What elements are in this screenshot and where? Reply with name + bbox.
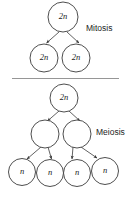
ploidy-label-daughter-1: 2n bbox=[40, 52, 49, 62]
ploidy-label-gamete-3: n bbox=[75, 167, 79, 177]
meiosis-section-label: Meiosis bbox=[96, 127, 125, 137]
meiosis-intermediate-cell-1 bbox=[31, 120, 59, 148]
arrow-meiosis-right-to-gamete-4 bbox=[81, 147, 97, 158]
meiosis-gamete-cell-3: n bbox=[64, 160, 91, 187]
cell-division-diagram: 2n 2n 2n Mitosis bbox=[0, 0, 134, 198]
mitosis-section-label: Mitosis bbox=[86, 23, 112, 33]
meiosis-gamete-cell-4: n bbox=[92, 158, 119, 185]
arrow-meiosis-left-to-gamete-1 bbox=[27, 147, 41, 159]
arrow-meiosis-left-to-gamete-2 bbox=[48, 147, 52, 159]
cell-outline bbox=[63, 120, 91, 148]
arrow-mitosis-parent-to-left bbox=[47, 32, 60, 43]
arrow-mitosis-parent-to-right bbox=[67, 32, 79, 43]
meiosis-arrows-tier-1 bbox=[48, 111, 81, 121]
ploidy-label-meiosis-parent: 2n bbox=[60, 92, 69, 102]
meiosis-section: 2n n n n bbox=[9, 84, 125, 187]
meiosis-arrows-tier-2 bbox=[27, 147, 97, 159]
ploidy-label-gamete-1: n bbox=[20, 166, 24, 176]
cell-outline bbox=[31, 120, 59, 148]
mitosis-daughter-cell-2: 2n bbox=[62, 44, 90, 72]
diagram-root: 2n 2n 2n Mitosis bbox=[0, 0, 134, 198]
ploidy-label-gamete-4: n bbox=[103, 165, 107, 175]
ploidy-label-gamete-2: n bbox=[48, 167, 52, 177]
meiosis-parent-cell: 2n bbox=[50, 84, 78, 112]
ploidy-label-daughter-2: 2n bbox=[72, 52, 81, 62]
ploidy-label-parent: 2n bbox=[59, 11, 68, 21]
meiosis-gamete-cell-2: n bbox=[37, 160, 64, 187]
meiosis-intermediate-cell-2 bbox=[63, 120, 91, 148]
arrow-meiosis-right-to-gamete-3 bbox=[72, 147, 73, 159]
mitosis-section: 2n 2n 2n Mitosis bbox=[30, 2, 112, 72]
mitosis-parent-cell: 2n bbox=[48, 2, 78, 32]
mitosis-arrows bbox=[47, 32, 80, 43]
mitosis-daughter-cell-1: 2n bbox=[30, 44, 58, 72]
meiosis-gamete-cell-1: n bbox=[9, 159, 36, 186]
arrow-meiosis-parent-to-right bbox=[69, 111, 80, 121]
arrow-meiosis-parent-to-left bbox=[48, 111, 60, 121]
